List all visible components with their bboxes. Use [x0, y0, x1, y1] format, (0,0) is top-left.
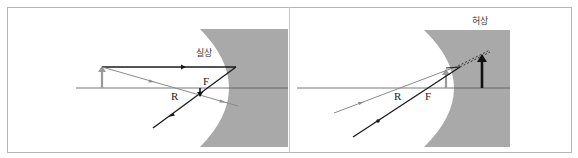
left-caption-real-image: 실상	[196, 49, 212, 58]
left-center-ray-arrow2-icon	[220, 100, 227, 103]
right-panel	[297, 30, 510, 147]
left-panel	[76, 29, 288, 147]
left-center-ray	[102, 67, 238, 106]
left-parallel-ray-arrow-icon	[181, 65, 186, 70]
left-center-ray-arrow-icon	[149, 80, 156, 83]
ray-diagram-svg	[0, 0, 578, 158]
right-caption-virtual-image: 허상	[472, 17, 488, 26]
right-concave-mirror	[424, 30, 510, 147]
right-focus-label: F	[425, 91, 431, 102]
right-center-ray-arrow-icon	[358, 102, 364, 105]
left-focus-label: F	[203, 76, 209, 87]
left-center-label: R	[171, 91, 178, 102]
right-center-label: R	[394, 91, 401, 102]
right-focal-ray-arrow-icon	[376, 119, 380, 123]
